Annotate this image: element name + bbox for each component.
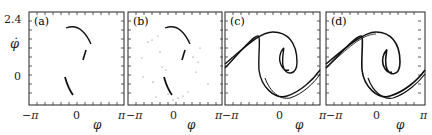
- panel-a-label: (a): [34, 15, 49, 28]
- panel-c-label: (c): [230, 15, 245, 28]
- panel-c: (c): [225, 12, 320, 105]
- panel-b: (b): [128, 12, 223, 105]
- figure-panels: (a) (b) (c) (d): [0, 0, 432, 135]
- panel-d-label: (d): [331, 15, 347, 28]
- panel-b-label: (b): [133, 15, 149, 28]
- panel-d: (d): [326, 12, 425, 105]
- panel-a: (a): [29, 12, 124, 105]
